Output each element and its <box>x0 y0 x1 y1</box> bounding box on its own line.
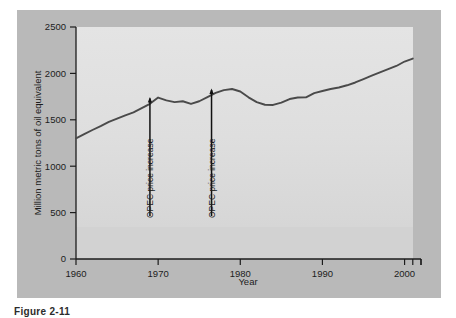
y-axis-ticks <box>70 27 76 259</box>
x-tick-label: 1990 <box>312 268 333 279</box>
y-tick-label: 0 <box>61 253 66 264</box>
annotation-label: OPEC price increase <box>145 138 155 218</box>
y-axis-title: Million metric tons of oil equivalent <box>32 70 43 215</box>
data-series-line <box>76 59 413 139</box>
annotation-arrowhead <box>148 97 152 103</box>
annotation-2: OPEC price increase <box>207 88 217 218</box>
x-axis-title: Year <box>238 276 257 287</box>
x-tick-label: 1970 <box>148 268 169 279</box>
annotation-arrowhead <box>209 88 213 94</box>
y-tick-label: 1500 <box>45 114 66 125</box>
x-axis-ticks <box>76 259 421 265</box>
figure-caption-text: Figure 2-11 <box>14 306 214 318</box>
line-chart: 05001000150020002500 1960197019801990200… <box>0 0 456 318</box>
chart-annotations: OPEC price increaseOPEC price increase <box>145 88 217 218</box>
y-tick-label: 2000 <box>45 68 66 79</box>
x-tick-label: 2000 <box>394 268 415 279</box>
y-tick-label: 500 <box>50 207 66 218</box>
figure-caption: Figure 2-11 <box>14 306 214 318</box>
figure-root: 05001000150020002500 1960197019801990200… <box>0 0 456 318</box>
annotation-label: OPEC price increase <box>207 138 217 218</box>
y-axis-tick-labels: 05001000150020002500 <box>45 21 66 264</box>
x-tick-label: 1960 <box>65 268 86 279</box>
annotation-1: OPEC price increase <box>145 97 155 218</box>
y-tick-label: 2500 <box>45 21 66 32</box>
y-tick-label: 1000 <box>45 161 66 172</box>
